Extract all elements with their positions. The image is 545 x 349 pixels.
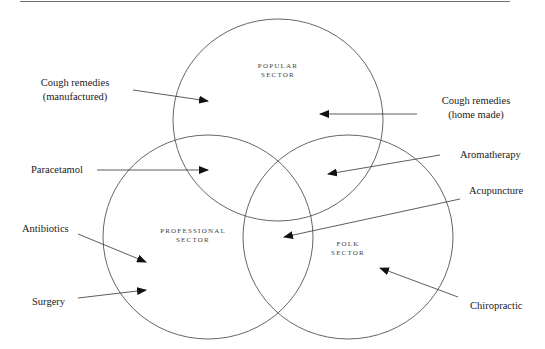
professional-sector-label: PROFESSIONAL SECTOR	[160, 227, 226, 245]
label-cough-home-made: Cough remedies (home made)	[442, 94, 511, 122]
label-cough-manufactured-line1: Cough remedies	[41, 76, 110, 90]
label-acupuncture: Acupuncture	[469, 184, 523, 198]
label-paracetamol: Paracetamol	[31, 163, 83, 177]
label-antibiotics: Antibiotics	[22, 222, 69, 236]
popular-sector-line2: SECTOR	[258, 71, 298, 80]
folk-sector-circle	[243, 135, 453, 339]
label-cough-home-made-line1: Cough remedies	[442, 94, 511, 108]
popular-sector-label: POPULAR SECTOR	[258, 62, 298, 80]
label-aromatherapy: Aromatherapy	[460, 148, 521, 162]
professional-sector-line1: PROFESSIONAL	[160, 227, 226, 236]
folk-sector-label: FOLK SECTOR	[331, 240, 365, 258]
arrow-surgery	[78, 290, 146, 298]
popular-sector-circle	[173, 19, 383, 221]
label-chiropractic: Chiropractic	[470, 299, 522, 313]
label-surgery: Surgery	[32, 295, 65, 309]
arrow-cough-manufactured	[133, 90, 208, 101]
arrow-acupuncture	[284, 199, 460, 237]
label-cough-manufactured: Cough remedies (manufactured)	[41, 76, 110, 104]
label-cough-home-made-line2: (home made)	[442, 108, 511, 122]
professional-sector-line2: SECTOR	[160, 236, 226, 245]
folk-sector-line2: SECTOR	[331, 249, 365, 258]
arrow-aromatherapy	[328, 155, 440, 174]
folk-sector-line1: FOLK	[331, 240, 365, 249]
popular-sector-line1: POPULAR	[258, 62, 298, 71]
arrow-antibiotics	[78, 234, 146, 262]
label-cough-manufactured-line2: (manufactured)	[41, 90, 110, 104]
